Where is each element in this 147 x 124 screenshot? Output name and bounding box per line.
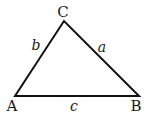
vertex-label-a: A — [6, 97, 18, 115]
triangle-shape — [15, 21, 139, 96]
side-label-b: b — [32, 37, 41, 53]
vertex-label-b: B — [130, 97, 141, 115]
side-label-c: c — [70, 98, 78, 114]
side-label-a: a — [98, 39, 106, 55]
triangle-diagram: C A B b a c — [0, 0, 147, 124]
vertex-label-c: C — [57, 3, 68, 21]
